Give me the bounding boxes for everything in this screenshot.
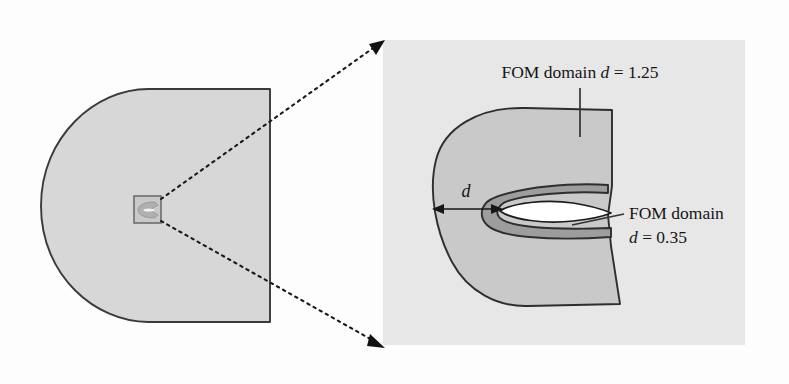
dimension-label-d: d bbox=[462, 181, 472, 201]
zoom-connector-arrow-bottom bbox=[367, 334, 385, 348]
outer-domain-label: FOM domain d = 1.25 bbox=[501, 62, 658, 82]
inner-domain-label-line1: FOM domain bbox=[629, 203, 724, 223]
zoom-region-miniature-airfoil bbox=[144, 209, 155, 212]
inner-domain-label-line2: d = 0.35 bbox=[629, 227, 687, 247]
outer-domain-label-prefix: FOM domain bbox=[501, 62, 600, 82]
zoom-connector-arrow-top bbox=[369, 40, 385, 55]
figure-container: d FOM domain d = 1.25 FOM domain d = 0.3… bbox=[0, 0, 789, 384]
outer-domain-label-variable: d bbox=[601, 62, 610, 82]
diagram-canvas: d FOM domain d = 1.25 FOM domain d = 0.3… bbox=[0, 0, 789, 384]
inner-domain-label-value: = 0.35 bbox=[638, 227, 687, 247]
inner-domain-label-variable: d bbox=[629, 227, 638, 247]
outer-domain-label-value: = 1.25 bbox=[609, 62, 658, 82]
